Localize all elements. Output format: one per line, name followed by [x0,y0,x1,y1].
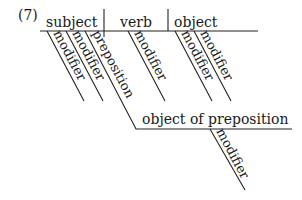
sentence-diagram: (7) subject verb object modifier modifie… [0,0,302,200]
verb-word: verb [119,14,152,30]
example-number: (7) [18,7,38,23]
subject-word: subject [46,14,98,30]
object-of-preposition-modifier: modifier [213,125,253,181]
object-of-preposition-word: object of preposition [142,111,289,127]
